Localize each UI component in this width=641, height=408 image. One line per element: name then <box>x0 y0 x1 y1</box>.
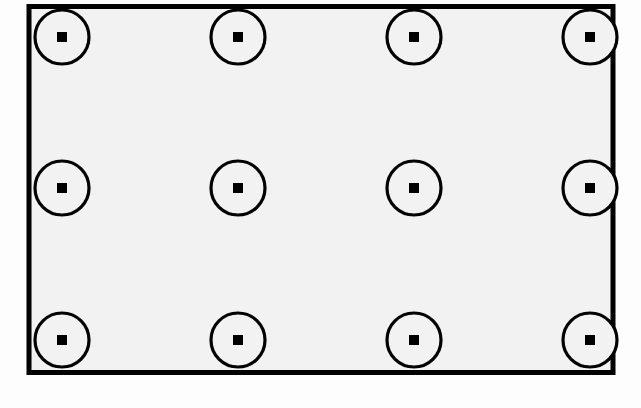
marker-r3-c1[interactable] <box>35 313 89 367</box>
marker-center-square-icon <box>409 32 419 42</box>
marker-center-square-icon <box>585 183 595 193</box>
marker-center-square-icon <box>57 32 67 42</box>
marker-r3-c2[interactable] <box>211 313 265 367</box>
marker-center-square-icon <box>585 32 595 42</box>
marker-center-square-icon <box>57 335 67 345</box>
fiducial-grid-diagram <box>0 0 641 408</box>
marker-r2-c3[interactable] <box>387 161 441 215</box>
marker-r2-c2[interactable] <box>211 161 265 215</box>
marker-r3-c4[interactable] <box>563 313 617 367</box>
marker-r1-c3[interactable] <box>387 10 441 64</box>
marker-center-square-icon <box>233 335 243 345</box>
marker-r1-c4[interactable] <box>563 10 617 64</box>
marker-r2-c4[interactable] <box>563 161 617 215</box>
marker-center-square-icon <box>233 32 243 42</box>
marker-center-square-icon <box>409 183 419 193</box>
marker-r3-c3[interactable] <box>387 313 441 367</box>
rectangle-plate <box>29 7 613 373</box>
marker-center-square-icon <box>233 183 243 193</box>
marker-r1-c1[interactable] <box>35 10 89 64</box>
marker-r1-c2[interactable] <box>211 10 265 64</box>
marker-center-square-icon <box>409 335 419 345</box>
marker-center-square-icon <box>585 335 595 345</box>
diagram-canvas <box>0 0 641 408</box>
marker-r2-c1[interactable] <box>35 161 89 215</box>
marker-center-square-icon <box>57 183 67 193</box>
